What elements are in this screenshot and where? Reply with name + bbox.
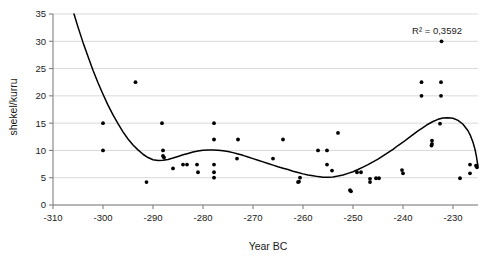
data-point [439,80,443,84]
x-tick-labels: -310-300-290-280-270-260-250-240-230 [43,212,462,223]
data-point [235,157,239,161]
data-point [185,163,189,167]
data-point [349,189,353,193]
r-squared-annotation: R² = 0,3592 [412,25,462,36]
data-point [420,80,424,84]
x-tick-label: -240 [393,212,412,223]
data-point [271,157,275,161]
data-point [298,176,302,180]
data-point [475,165,479,169]
data-point [330,169,334,173]
data-point [145,180,149,184]
data-point [212,163,216,167]
data-point [430,144,434,148]
data-point [196,170,200,174]
data-point [212,121,216,125]
y-axis [49,14,53,205]
chart-figure: 05101520253035 -310-300-290-280-270-260-… [0,0,488,258]
x-tick-label: -280 [193,212,212,223]
x-tick-label: -290 [143,212,162,223]
scatter-plot: 05101520253035 -310-300-290-280-270-260-… [0,0,488,258]
x-axis-title: Year BC [249,240,288,252]
data-point [400,168,404,172]
y-tick-labels: 05101520253035 [35,8,46,210]
data-point [161,149,165,153]
x-tick-label: -250 [343,212,362,223]
y-tick-label: 15 [35,118,46,129]
data-point [468,171,472,175]
x-tick-label: -260 [293,212,312,223]
data-point [359,170,363,174]
y-tick-label: 10 [35,145,46,156]
data-point [440,39,444,43]
data-point [420,94,424,98]
x-axis [53,205,478,209]
data-point [160,121,164,125]
y-tick-label: 30 [35,36,46,47]
data-point [181,163,185,167]
data-point [101,121,105,125]
data-point [162,156,166,160]
data-point [438,122,442,126]
y-axis-title: shekel/kurru [7,78,19,135]
data-point [439,94,443,98]
data-point [171,167,175,171]
data-point [134,80,138,84]
data-point [236,138,240,142]
data-point [368,180,372,184]
data-point [368,177,372,181]
data-point [101,149,105,153]
data-point [296,180,300,184]
data-point [468,163,472,167]
y-tick-label: 0 [41,199,46,210]
data-point [195,163,199,167]
x-tick-label: -270 [243,212,262,223]
data-point [458,176,462,180]
gridlines [53,14,478,205]
data-point [281,138,285,142]
x-tick-label: -230 [443,212,462,223]
x-tick-label: -310 [43,212,62,223]
data-point [401,171,405,175]
y-tick-label: 20 [35,90,46,101]
y-tick-label: 35 [35,8,46,19]
y-tick-label: 25 [35,63,46,74]
data-point [325,149,329,153]
data-point [336,131,340,135]
data-point [430,139,434,143]
x-tick-label: -300 [93,212,112,223]
y-tick-label: 5 [41,172,46,183]
data-point [325,163,329,167]
data-point [212,138,216,142]
data-point [212,176,216,180]
data-point [316,149,320,153]
data-point [377,176,381,180]
data-point [212,170,216,174]
data-point [355,170,359,174]
